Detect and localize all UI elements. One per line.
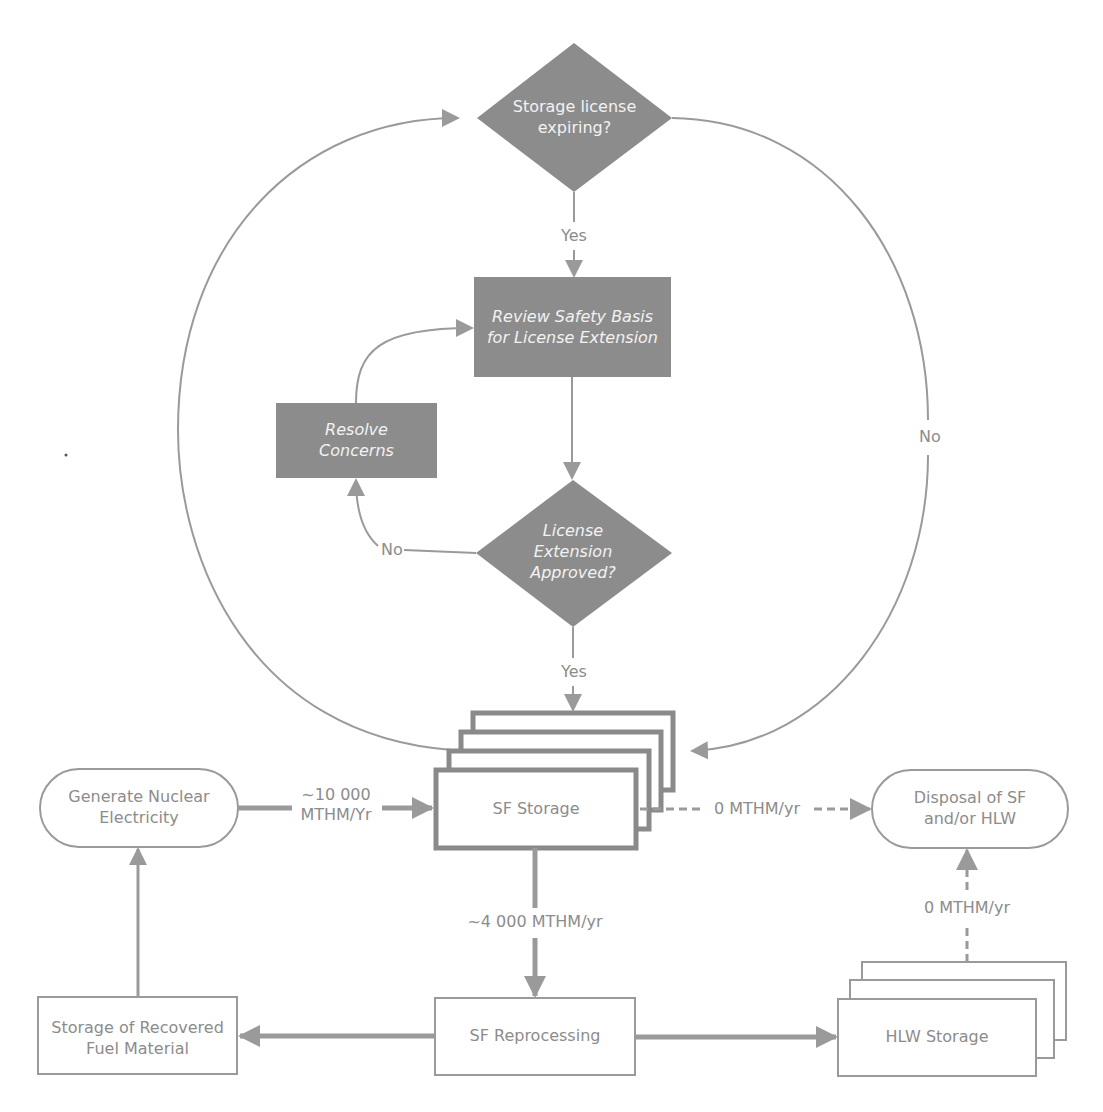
edge-label-generate-line1: ~10 000 (290, 785, 382, 805)
edge-label-hlw-to-disposal: 0 MTHM/yr (912, 898, 1022, 918)
edge-label-generate-line2: MTHM/Yr (290, 805, 382, 825)
edge-label-approved-no: No (378, 540, 406, 560)
storage-recovered-fuel-label: Storage of Recovered Fuel Material (50, 999, 225, 1079)
sf-reprocessing-label: SF Reprocessing (437, 1000, 633, 1073)
edge-label-expiring-no: No (914, 427, 946, 447)
edge-label-expiring-yes: Yes (556, 226, 592, 246)
edge-label-storage-to-disposal: 0 MTHM/yr (700, 799, 814, 819)
sf-storage-label: SF Storage (438, 772, 634, 846)
scan-speck (65, 454, 68, 457)
edge-label-storage-to-reprocessing: ~4 000 MTHM/yr (455, 912, 615, 932)
resolve-concerns-label: Resolve Concerns (290, 410, 423, 472)
decision-approved-label: License Extension Approved? (518, 510, 628, 595)
generate-nuclear-electricity-label: Generate Nuclear Electricity (55, 771, 223, 845)
hlw-storage-label: HLW Storage (840, 1001, 1034, 1074)
edge-label-approved-yes: Yes (556, 662, 592, 682)
disposal-label: Disposal of SF and/or HLW (900, 772, 1040, 846)
review-safety-basis-label: Review Safety Basis for License Extensio… (480, 290, 665, 365)
loop-arc-right-no (672, 118, 928, 420)
loop-arc-right-no-lower (692, 455, 928, 751)
edge-label-generate-to-storage: ~10 000 MTHM/Yr (290, 785, 382, 825)
decision-expiring-label: Storage license expiring? (497, 88, 652, 148)
